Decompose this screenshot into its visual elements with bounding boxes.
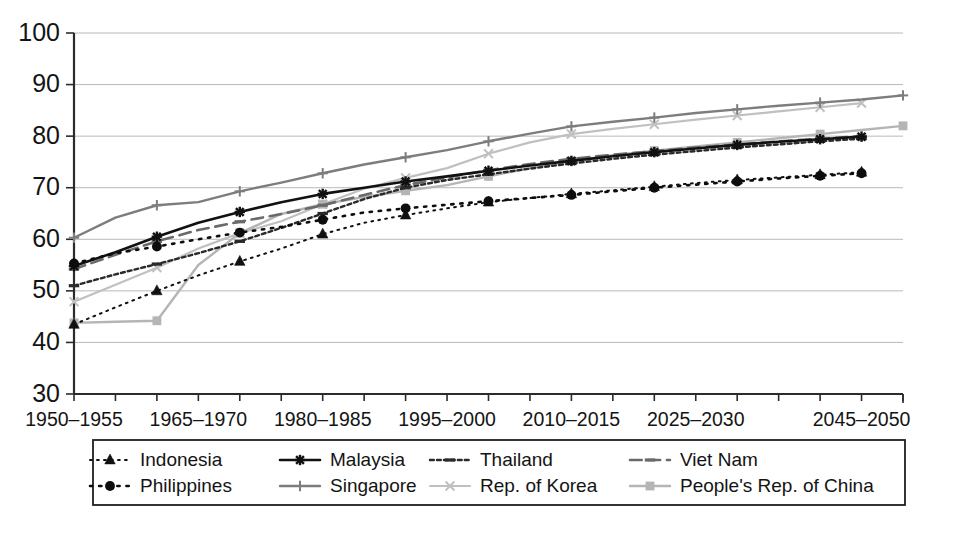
data-point-marker	[69, 284, 79, 287]
data-point-marker	[646, 482, 655, 491]
data-point-marker	[857, 168, 867, 178]
data-point-marker	[815, 134, 825, 144]
data-point-marker	[318, 204, 328, 207]
data-point-marker	[649, 183, 659, 193]
data-point-marker	[899, 121, 908, 130]
data-point-marker	[645, 458, 655, 461]
x-axis-tick-label: 2010–2015	[523, 408, 621, 430]
y-axis-tick-label: 30	[32, 379, 60, 407]
y-axis-tick-label: 40	[32, 327, 60, 355]
x-axis-tick-label: 1965–1970	[150, 408, 248, 430]
data-point-marker	[235, 207, 245, 217]
data-point-marker	[484, 196, 494, 206]
legend-item-label: Rep. of Korea	[480, 475, 598, 496]
legend-item-label: Indonesia	[140, 449, 223, 470]
data-point-marker	[483, 165, 493, 175]
legend-item-label: Malaysia	[330, 449, 405, 470]
y-axis-tick-label: 60	[32, 224, 60, 252]
x-axis-tick-label: 1950–1955	[25, 408, 123, 430]
data-point-marker	[69, 259, 79, 269]
data-point-marker	[732, 140, 742, 150]
data-point-marker	[445, 458, 455, 461]
legend-item-label: Singapore	[330, 475, 417, 496]
y-axis-tick-label: 80	[32, 121, 60, 149]
data-point-marker	[152, 316, 161, 325]
data-point-marker	[400, 176, 410, 186]
y-axis-tick-label: 70	[32, 172, 60, 200]
line-chart: 30405060708090100 1950–19551965–19701980…	[0, 0, 978, 543]
x-axis-tick-label: 1980–1985	[274, 408, 372, 430]
data-point-marker	[105, 481, 115, 491]
x-axis-tick-label: 1995–2000	[398, 408, 496, 430]
data-point-marker	[235, 220, 245, 223]
y-axis-tick-label: 90	[32, 69, 60, 97]
data-point-marker	[152, 232, 162, 242]
x-axis-tick-label: 2025–2030	[647, 408, 745, 430]
data-point-marker	[235, 228, 245, 238]
data-point-marker	[649, 147, 659, 157]
legend-item-label: People's Rep. of China	[680, 475, 874, 496]
x-axis-tick-label: 2045–2050	[813, 408, 911, 430]
data-point-marker	[401, 203, 411, 213]
y-axis-tick-label: 100	[18, 18, 60, 46]
data-point-marker	[318, 212, 328, 215]
data-point-marker	[318, 189, 328, 199]
data-point-marker	[152, 262, 162, 265]
data-point-marker	[732, 177, 742, 187]
y-axis-tick-label: 50	[32, 275, 60, 303]
data-point-marker	[318, 215, 328, 225]
data-point-marker	[152, 242, 162, 252]
legend-item-label: Thailand	[480, 449, 553, 470]
data-point-marker	[566, 190, 576, 200]
data-point-marker	[295, 455, 305, 465]
data-point-marker	[235, 240, 245, 243]
data-point-marker	[815, 171, 825, 181]
data-point-marker	[856, 131, 866, 141]
chart-canvas: 30405060708090100 1950–19551965–19701980…	[0, 0, 978, 543]
legend-item-label: Viet Nam	[680, 449, 758, 470]
legend-item-label: Philippines	[140, 475, 232, 496]
data-point-marker	[566, 156, 576, 166]
